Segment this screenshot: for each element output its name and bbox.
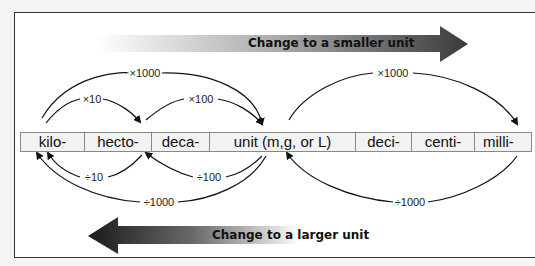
arrow-kilo-to-unit bbox=[42, 73, 262, 124]
label-div100: ÷100 bbox=[197, 171, 221, 183]
arrow-unit-to-kilo bbox=[37, 153, 266, 202]
prefix-centi: centi- bbox=[412, 133, 475, 151]
label-div1000-left: ÷1000 bbox=[144, 196, 175, 208]
prefix-deca: deca- bbox=[152, 133, 210, 151]
prefix-deci: deci- bbox=[356, 133, 412, 151]
label-x1000-right: ×1000 bbox=[378, 67, 409, 79]
prefix-milli: milli- bbox=[475, 133, 531, 151]
bottom-banner-label: Change to a larger unit bbox=[212, 228, 369, 242]
label-div10: ÷10 bbox=[85, 171, 103, 183]
prefix-row: kilo- hecto- deca- unit (m,g, or L) deci… bbox=[20, 132, 532, 152]
prefix-hecto: hecto- bbox=[85, 133, 152, 151]
top-banner-label: Change to a smaller unit bbox=[248, 36, 414, 50]
bottom-banner-text: Change to a larger unit bbox=[212, 228, 369, 242]
arrow-milli-to-unit bbox=[287, 153, 517, 202]
label-div1000-right: ÷1000 bbox=[395, 196, 426, 208]
prefix-unit: unit (m,g, or L) bbox=[210, 133, 356, 151]
label-x10: ×10 bbox=[83, 93, 102, 105]
label-x1000-left: ×1000 bbox=[130, 67, 161, 79]
arrow-unit-to-milli bbox=[289, 73, 517, 124]
label-x100: ×100 bbox=[189, 93, 214, 105]
prefix-kilo: kilo- bbox=[21, 133, 85, 151]
